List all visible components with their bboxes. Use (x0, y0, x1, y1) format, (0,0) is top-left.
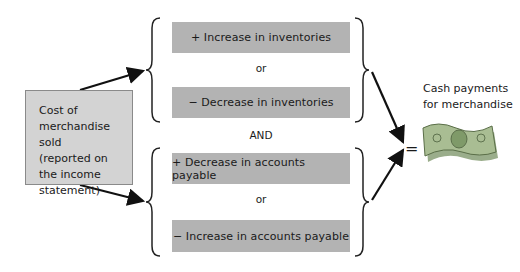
increase-inventories-box: + Increase in inventories (172, 22, 350, 53)
left-brace-bottom (146, 148, 160, 256)
decrease-inventories-box: − Decrease in inventories (172, 87, 350, 118)
or-label-bottom: or (171, 193, 351, 205)
and-label: AND (171, 129, 351, 141)
result-line: Cash payments (423, 81, 520, 97)
source-line: statement) (39, 183, 126, 199)
right-brace-top (355, 18, 369, 122)
decrease-accounts-payable-box: + Decrease in accounts payable (172, 153, 350, 184)
source-line: (reported on (39, 151, 126, 167)
source-line: merchandise sold (39, 119, 126, 151)
cash-money-icon (420, 118, 502, 168)
cost-of-merchandise-sold-box: Cost of merchandise sold (reported on th… (25, 90, 133, 185)
cash-payments-label: Cash payments for merchandise (423, 81, 520, 113)
source-line: Cost of (39, 103, 126, 119)
left-brace-top (146, 18, 160, 122)
result-line: for merchandise (423, 97, 520, 113)
equals-sign: = (405, 139, 418, 158)
source-line: the income (39, 167, 126, 183)
increase-accounts-payable-box: − Increase in accounts payable (172, 220, 350, 252)
or-label-top: or (171, 62, 351, 74)
right-brace-bottom (355, 148, 369, 256)
